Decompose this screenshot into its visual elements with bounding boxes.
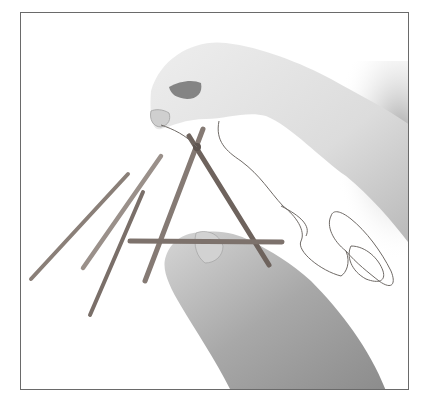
photo <box>21 13 409 390</box>
loose-sticks <box>31 156 161 315</box>
photo-frame <box>20 12 409 390</box>
caption-area <box>0 396 427 414</box>
